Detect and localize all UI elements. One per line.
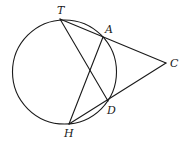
label-C: C [170,57,179,70]
chord-T-D [60,19,108,101]
label-T: T [57,4,66,17]
secant-T-C [60,19,166,63]
secant-H-C [69,63,166,124]
geometry-diagram: T A C D H [0,0,184,141]
chord-H-A [69,37,103,124]
label-H: H [63,127,74,140]
label-D: D [106,104,116,117]
label-A: A [104,23,113,36]
